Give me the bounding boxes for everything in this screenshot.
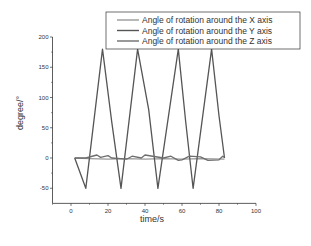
series-line-1 — [75, 49, 225, 188]
legend: Angle of rotation around the X axisAngle… — [106, 12, 300, 49]
y-tick-label: 150 — [38, 64, 49, 70]
data-lines — [75, 49, 225, 188]
x-axis-label: time/s — [140, 214, 165, 224]
x-tick-label: 20 — [105, 208, 112, 214]
y-tick-label: -50 — [40, 185, 49, 191]
x-tick-label: 80 — [216, 208, 223, 214]
x-tick-label: 0 — [69, 208, 73, 214]
x-tick-label: 100 — [251, 208, 262, 214]
legend-entry: Angle of rotation around the X axis — [142, 15, 272, 25]
y-tick-label: 100 — [38, 95, 49, 101]
legend-entry: Angle of rotation around the Y axis — [142, 26, 272, 36]
y-tick-label: 50 — [42, 125, 49, 131]
legend-entry: Angle of rotation around the Z axis — [142, 36, 272, 46]
y-tick-label: 200 — [38, 34, 49, 40]
y-tick-label: 0 — [45, 155, 49, 161]
line-chart: -50050100150200020406080100 time/s degre… — [0, 0, 311, 246]
x-tick-label: 60 — [179, 208, 186, 214]
y-axis-label: degree/° — [15, 96, 25, 131]
